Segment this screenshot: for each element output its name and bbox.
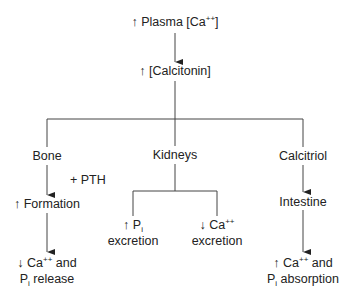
bone-result-node: ↓ Ca++ and Pi release [17,256,76,288]
ca-excretion-node: ↓ Ca++ excretion [192,218,243,249]
up-arrow-icon: ↑ [123,218,129,232]
intestine-result-node: ↑ Ca++ and Pi absorption [267,256,339,288]
up-arrow-icon: ↑ [273,256,279,270]
calcitonin-node: ↑ [Calcitonin] [139,64,211,79]
calcitriol-node: Calcitriol [279,149,327,164]
down-arrow-icon: ↓ [199,218,205,232]
plasma-calcium-node: ↑ Plasma [Ca++] [131,15,218,31]
intestine-node: Intestine [279,195,326,210]
bone-node: Bone [32,149,61,164]
up-arrow-icon: ↑ [139,64,145,78]
formation-node: ↑ Formation [14,197,80,212]
down-arrow-icon: ↓ [17,256,23,270]
kidneys-node: Kidneys [153,148,197,163]
pi-excretion-node: ↑ Pi excretion [108,218,159,249]
up-arrow-icon: ↑ [131,15,137,29]
up-arrow-icon: ↑ [14,197,20,211]
pth-modifier: + PTH [70,173,106,188]
